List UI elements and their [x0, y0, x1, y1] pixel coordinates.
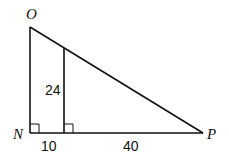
vertex-label-N: N — [12, 126, 24, 142]
vertex-label-P: P — [206, 126, 216, 142]
measure-label-24: 24 — [45, 82, 61, 98]
right-angle-marker-N — [30, 124, 39, 133]
segment-OP — [30, 27, 203, 133]
vertex-label-O: O — [26, 6, 37, 22]
right-angle-marker-inner — [64, 124, 73, 133]
measure-label-10: 10 — [41, 138, 57, 154]
diagram-canvas: O N P 24 10 40 — [0, 0, 229, 156]
measure-label-40: 40 — [123, 138, 139, 154]
triangle-diagram: O N P 24 10 40 — [0, 0, 229, 156]
